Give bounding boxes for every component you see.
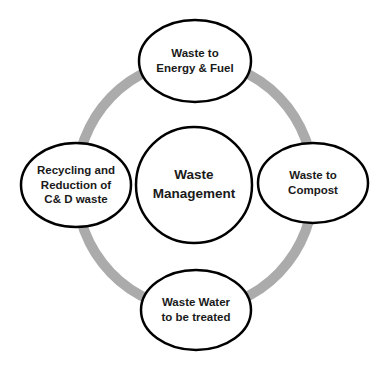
node-right-label: Waste to Compost bbox=[258, 143, 368, 223]
node-label-line: Waste to bbox=[156, 46, 233, 61]
center-label-line: Waste bbox=[153, 166, 236, 185]
center-label-line: Management bbox=[153, 185, 236, 204]
node-label-line: Compost bbox=[288, 183, 338, 198]
node-label-line: Waste Water bbox=[161, 295, 230, 310]
node-label-line: C& D waste bbox=[37, 192, 115, 207]
node-label-line: Reduction of bbox=[37, 178, 115, 193]
node-label-line: Waste to bbox=[288, 168, 338, 183]
node-label-line: Recycling and bbox=[37, 163, 115, 178]
node-label-line: to be treated bbox=[161, 310, 230, 325]
node-top-label: Waste to Energy & Fuel bbox=[139, 20, 251, 102]
node-bottom-label: Waste Water to be treated bbox=[141, 270, 251, 350]
node-left-label: Recycling and Reduction of C& D waste bbox=[21, 143, 131, 227]
center-label: Waste Management bbox=[136, 127, 252, 243]
node-label-line: Energy & Fuel bbox=[156, 61, 233, 76]
